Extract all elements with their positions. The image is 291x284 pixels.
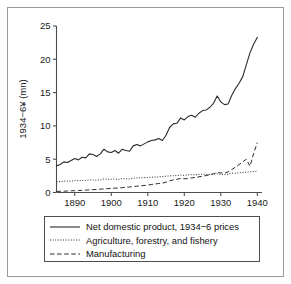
- x-tick-label: 1940: [247, 197, 268, 208]
- legend-row[interactable]: Manufacturing: [50, 247, 254, 261]
- legend-row[interactable]: Agriculture, forestry, and fishery: [50, 234, 254, 248]
- dashed-line-icon: [50, 249, 80, 259]
- x-tick-label: 1930: [210, 197, 231, 208]
- series-line-0: [57, 37, 258, 166]
- y-tick-label: 5: [45, 154, 50, 165]
- x-tick-label: 1890: [64, 197, 85, 208]
- x-tick-label: 1910: [137, 197, 158, 208]
- chart-figure: 0510152025 189019001910192019301940 1934…: [0, 0, 291, 284]
- dotted-line-icon: [50, 235, 80, 245]
- series-line-1: [57, 171, 258, 182]
- legend-label: Net domestic product, 1934−6 prices: [86, 221, 239, 232]
- y-tick-label: 15: [40, 87, 51, 98]
- x-tick-label: 1900: [101, 197, 122, 208]
- axis-group: [57, 26, 263, 193]
- chart-legend: Net domestic product, 1934−6 pricesAgric…: [44, 216, 260, 262]
- y-axis-title: 1934−6¥ (mn): [17, 79, 28, 138]
- legend-label: Agriculture, forestry, and fishery: [86, 235, 218, 246]
- y-axis-title-text: 1934−6¥ (mn): [17, 79, 28, 138]
- legend-label: Manufacturing: [86, 248, 145, 259]
- y-axis-ticks: 0510152025: [40, 20, 57, 198]
- x-axis-ticks: 189019001910192019301940: [64, 193, 268, 209]
- y-tick-label: 0: [45, 187, 50, 198]
- y-tick-label: 10: [40, 120, 51, 131]
- data-series-group: [57, 37, 258, 191]
- x-tick-label: 1920: [174, 197, 195, 208]
- y-tick-label: 25: [40, 20, 51, 31]
- legend-row[interactable]: Net domestic product, 1934−6 prices: [50, 220, 254, 234]
- y-tick-label: 20: [40, 54, 51, 65]
- solid-line-icon: [50, 222, 80, 232]
- series-line-2: [57, 143, 258, 192]
